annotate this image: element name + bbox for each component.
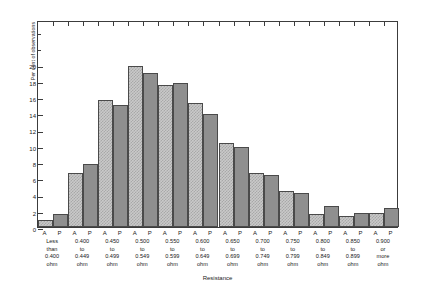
- x-axis-series-tick-a: A: [338, 229, 353, 237]
- x-axis-series-tick-p: P: [112, 229, 127, 237]
- x-axis-series-tick-p: P: [142, 229, 157, 237]
- bar-p-1: [83, 164, 98, 227]
- x-axis-series-tick-a: A: [308, 229, 323, 237]
- x-axis-category-label-line: 0.700: [248, 238, 278, 246]
- x-axis-series-tick-a: A: [97, 229, 112, 237]
- x-axis-category-label-line: 0.849: [308, 253, 338, 261]
- bar-a-7: [249, 173, 264, 227]
- x-axis-category-label-line: 0.749: [248, 253, 278, 261]
- bar-a-10: [339, 216, 354, 227]
- x-axis-category-label-line: 0.499: [97, 253, 127, 261]
- x-axis-category-label: 0.450to0.499ohm: [97, 238, 127, 268]
- bar-a-9: [309, 214, 324, 227]
- y-axis-tick-label: 4: [33, 193, 36, 201]
- x-axis-category-label-line: ohm: [308, 261, 338, 269]
- x-axis-category-label-line: ohm: [248, 261, 278, 269]
- x-axis-series-tick-a: A: [248, 229, 263, 237]
- x-axis-category-label-line: 0.699: [218, 253, 248, 261]
- x-axis-category-label: Lessthan0.400ohm: [37, 238, 67, 268]
- x-axis-category-label: 0.500to0.549ohm: [127, 238, 157, 268]
- x-axis-category-label-line: to: [278, 246, 308, 254]
- x-axis-category-label: 0.400to0.449ohm: [67, 238, 97, 268]
- bar-series-group: [38, 22, 397, 227]
- bar-p-11: [384, 208, 399, 227]
- chart-figure: 02468101214161820 Per cent of observatio…: [0, 0, 423, 288]
- x-axis-category-label-line: ohm: [218, 261, 248, 269]
- x-axis-category-label-line: or: [368, 246, 398, 254]
- y-axis-tick-label: 6: [33, 177, 36, 185]
- x-axis-category-label-line: 0.750: [278, 238, 308, 246]
- x-axis-category-label-line: to: [187, 246, 217, 254]
- x-axis-category-label-line: 0.850: [338, 238, 368, 246]
- x-axis-category-label-line: 0.400: [37, 253, 67, 261]
- y-axis-tick-label: 0: [33, 226, 36, 234]
- x-axis-category-label: 0.900ormoreohm: [368, 238, 398, 268]
- x-axis-label: Resistance: [37, 275, 398, 281]
- bar-a-2: [98, 100, 113, 227]
- x-axis-category-label: 0.600to0.649ohm: [187, 238, 217, 268]
- y-axis-tick-label: 14: [29, 112, 36, 120]
- x-axis-category-label-line: 0.650: [218, 238, 248, 246]
- plot-area: 02468101214161820: [37, 21, 398, 228]
- x-axis-category-label-line: 0.649: [187, 253, 217, 261]
- bar-p-4: [173, 83, 188, 227]
- x-axis-category-label: 0.700to0.749ohm: [248, 238, 278, 268]
- y-axis-label: Per cent of observations: [30, 0, 36, 111]
- y-axis-tick-label: 2: [33, 210, 36, 218]
- x-axis-category-label-line: 0.800: [308, 238, 338, 246]
- x-axis-category-label-line: 0.400: [67, 238, 97, 246]
- bar-a-4: [158, 85, 173, 227]
- x-axis-series-tick-p: P: [202, 229, 217, 237]
- x-axis-category-label-line: ohm: [187, 261, 217, 269]
- bar-p-6: [234, 147, 249, 227]
- y-axis-tick-label: 8: [33, 161, 36, 169]
- y-axis-tick-label: 10: [29, 145, 36, 153]
- x-axis-series-tick-p: P: [383, 229, 398, 237]
- x-axis-category-label-line: to: [308, 246, 338, 254]
- x-axis-series-tick-a: A: [218, 229, 233, 237]
- x-axis-category-label-line: 0.899: [338, 253, 368, 261]
- x-axis-category-label-line: to: [67, 246, 97, 254]
- bar-p-10: [354, 213, 369, 227]
- bar-p-5: [203, 114, 218, 227]
- x-axis-category-label: 0.550to0.599ohm: [157, 238, 187, 268]
- bar-a-11: [369, 213, 384, 227]
- bar-a-1: [68, 173, 83, 227]
- bar-p-0: [53, 214, 68, 227]
- x-axis-category-label-line: more: [368, 253, 398, 261]
- x-axis-series-tick-a: A: [368, 229, 383, 237]
- bar-p-9: [324, 206, 339, 227]
- x-axis-category-label-line: 0.500: [127, 238, 157, 246]
- x-axis-category-label: 0.650to0.699ohm: [218, 238, 248, 268]
- bar-a-8: [279, 191, 294, 227]
- x-axis-category-label-line: ohm: [37, 261, 67, 269]
- x-axis-series-tick-a: A: [187, 229, 202, 237]
- x-axis-series-tick-a: A: [67, 229, 82, 237]
- x-axis-category-label-line: ohm: [97, 261, 127, 269]
- x-axis-category-label-line: 0.600: [187, 238, 217, 246]
- bar-a-6: [219, 143, 234, 227]
- x-axis-category-label-line: ohm: [157, 261, 187, 269]
- x-axis-category-label-line: 0.550: [157, 238, 187, 246]
- x-axis-series-tick-a: A: [37, 229, 52, 237]
- x-axis-series-tick-p: P: [323, 229, 338, 237]
- bar-p-7: [264, 175, 279, 227]
- x-axis-category-label-line: than: [37, 246, 67, 254]
- x-axis-category-label-line: Less: [37, 238, 67, 246]
- x-axis-category-label-line: 0.599: [157, 253, 187, 261]
- x-axis-series-tick-p: P: [263, 229, 278, 237]
- x-axis-series-tick-a: A: [127, 229, 142, 237]
- x-axis-series-tick-a: A: [278, 229, 293, 237]
- x-axis-series-tick-p: P: [293, 229, 308, 237]
- x-axis-series-tick-p: P: [172, 229, 187, 237]
- x-axis-category-label-line: 0.549: [127, 253, 157, 261]
- x-axis-category-label-line: to: [97, 246, 127, 254]
- bar-a-3: [128, 66, 143, 227]
- x-axis-series-tick-p: P: [82, 229, 97, 237]
- x-axis-category-label-line: 0.450: [97, 238, 127, 246]
- x-axis-category-label-line: ohm: [338, 261, 368, 269]
- x-axis-series-tick-a: A: [157, 229, 172, 237]
- x-axis-category-label: 0.750to0.799ohm: [278, 238, 308, 268]
- x-axis-category-label-line: ohm: [127, 261, 157, 269]
- x-axis-series-tick-p: P: [233, 229, 248, 237]
